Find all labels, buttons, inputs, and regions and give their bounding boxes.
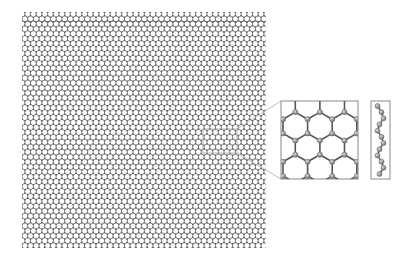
- main-hexagonal-lattice: [13, 5, 274, 260]
- inset-side-view: [371, 101, 390, 179]
- lattice-figure: [0, 0, 410, 261]
